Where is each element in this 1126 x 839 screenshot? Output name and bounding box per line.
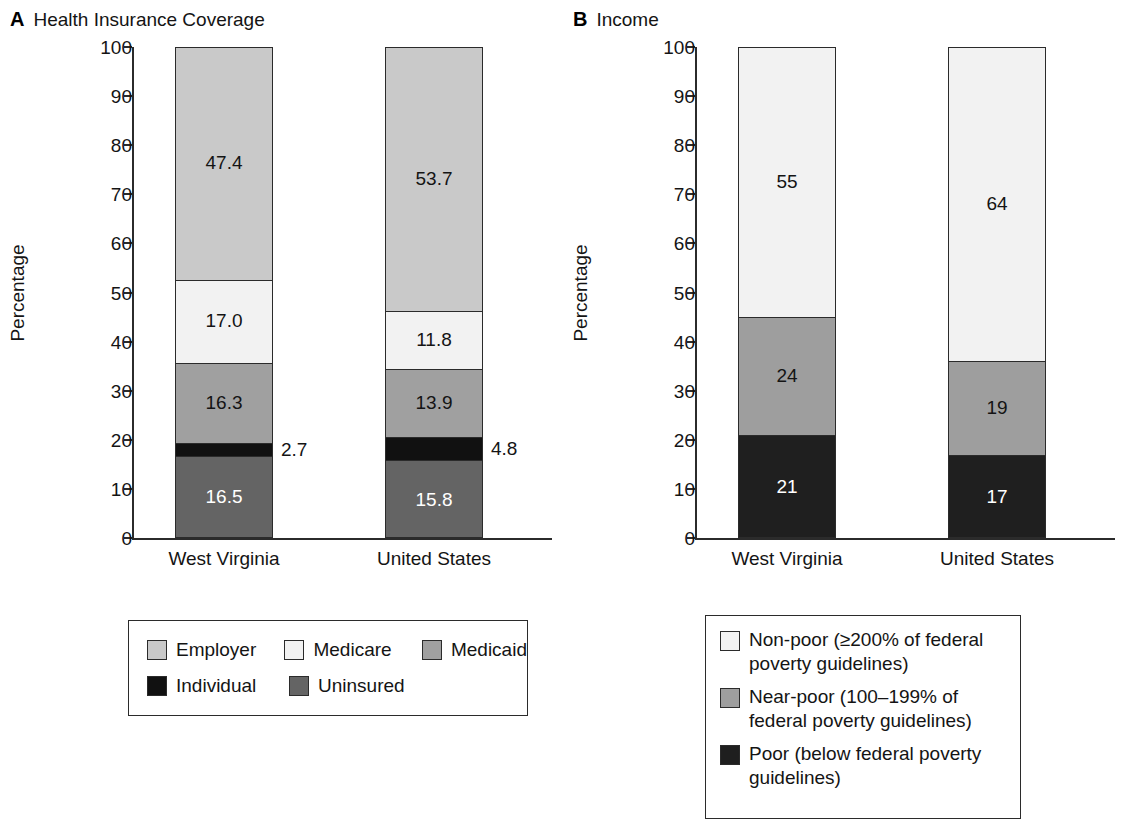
bar-segment: 17.0 [176, 281, 272, 364]
panel-b-x-axis [695, 538, 1115, 540]
bar-segment: 64 [949, 48, 1045, 362]
y-tick-label: 10 [72, 479, 132, 498]
stacked-bar: 641917 [948, 47, 1046, 538]
legend-item-near-poor[interactable]: Near-poor (100–199% of federal poverty g… [720, 685, 1008, 732]
bar-segment: 13.9 [386, 370, 482, 438]
bar-segment: 53.7 [386, 48, 482, 312]
bar-segment-value-label: 47.4 [206, 153, 243, 172]
stacked-bar: 47.417.016.316.5 [175, 47, 273, 538]
bar-segment-value-label: 24 [776, 366, 797, 385]
bar-segment: 47.4 [176, 48, 272, 281]
y-tick-label: 30 [72, 381, 132, 400]
legend-item-uninsured[interactable]: Uninsured [289, 675, 431, 697]
y-tick-label: 20 [635, 430, 695, 449]
y-tick-label: 50 [72, 283, 132, 302]
panel-a-x-axis [132, 538, 552, 540]
bar-segment-value-label: 53.7 [416, 169, 453, 188]
bar-segment-value-label: 19 [986, 398, 1007, 417]
panel-health-insurance-coverage: A Health Insurance Coverage Percentage 0… [0, 0, 563, 839]
legend-row: Employer Medicare Medicaid [129, 632, 527, 668]
y-tick-label: 0 [72, 529, 132, 548]
legend-item-employer[interactable]: Employer [147, 639, 284, 661]
bar-segment: 55 [739, 48, 835, 318]
bar-segment: 24 [739, 318, 835, 436]
legend-swatch-icon [720, 745, 740, 765]
bar-segment: 16.5 [176, 457, 272, 538]
bar-segment-value-label: 13.9 [416, 393, 453, 412]
bar-segment-value-label: 17 [986, 487, 1007, 506]
bar-segment-value-label: 4.8 [491, 438, 517, 460]
y-tick-label: 30 [635, 381, 695, 400]
legend-item-label: Near-poor (100–199% of federal poverty g… [749, 685, 1008, 732]
y-tick-label: 100 [72, 38, 132, 57]
panel-b-y-axis-title: Percentage [570, 244, 592, 341]
panel-b-legend: Non-poor (≥200% of federal poverty guide… [705, 615, 1021, 819]
stacked-bar: 552421 [738, 47, 836, 538]
bar-segment: 16.3 [176, 364, 272, 444]
bar-segment-value-label: 55 [776, 172, 797, 191]
panel-a-y-axis-title: Percentage [7, 244, 29, 341]
y-tick-label: 40 [72, 332, 132, 351]
bar-segment: 15.8 [386, 461, 482, 538]
bar-segment-value-label: 2.7 [281, 439, 307, 461]
legend-swatch-icon [720, 631, 740, 651]
bar-segment [386, 438, 482, 462]
bar-segment-value-label: 15.8 [416, 490, 453, 509]
bar-segment-value-label: 16.5 [206, 487, 243, 506]
x-axis-category-label: West Virginia [677, 548, 897, 570]
y-tick-label: 100 [635, 38, 695, 57]
panel-a-y-axis [132, 47, 134, 539]
legend-swatch-icon [289, 676, 309, 696]
legend-swatch-icon [422, 640, 442, 660]
legend-item-poor[interactable]: Poor (below federal poverty guidelines) [720, 742, 1008, 789]
y-tick-label: 50 [635, 283, 695, 302]
x-axis-category-label: United States [887, 548, 1107, 570]
y-tick-label: 70 [635, 185, 695, 204]
bar-segment: 17 [949, 456, 1045, 538]
legend-row: Individual Uninsured [129, 668, 527, 704]
bar-segment-value-label: 16.3 [206, 393, 243, 412]
stacked-bar: 53.711.813.915.8 [385, 47, 483, 538]
bar-segment: 11.8 [386, 312, 482, 370]
bar-segment: 19 [949, 362, 1045, 455]
bar-segment-value-label: 21 [776, 477, 797, 496]
x-axis-category-label: United States [324, 548, 544, 570]
legend-item-label: Poor (below federal poverty guidelines) [749, 742, 1008, 789]
x-axis-category-label: West Virginia [114, 548, 334, 570]
legend-item-label: Medicare [313, 639, 391, 661]
legend-item-label: Individual [176, 675, 256, 697]
legend-item-medicare[interactable]: Medicare [284, 639, 421, 661]
bar-segment: 21 [739, 436, 835, 538]
y-tick-label: 70 [72, 185, 132, 204]
y-tick-label: 80 [635, 136, 695, 155]
bar-segment-value-label: 64 [986, 194, 1007, 213]
bar-segment [176, 444, 272, 457]
legend-swatch-icon [147, 676, 167, 696]
legend-item-medicaid[interactable]: Medicaid [422, 639, 527, 661]
panel-a-plot: Percentage 0102030405060708090100 2.747.… [0, 0, 563, 600]
y-tick-label: 10 [635, 479, 695, 498]
legend-item-label: Employer [176, 639, 256, 661]
legend-item-label: Medicaid [451, 639, 527, 661]
legend-item-label: Non-poor (≥200% of federal poverty guide… [749, 628, 1008, 675]
y-tick-label: 40 [635, 332, 695, 351]
panel-b-plot: Percentage 0102030405060708090100 552421… [563, 0, 1126, 600]
legend-swatch-icon [720, 688, 740, 708]
y-tick-label: 60 [635, 234, 695, 253]
bar-segment-value-label: 11.8 [416, 330, 452, 349]
bar-segment-value-label: 17.0 [206, 311, 243, 330]
legend-item-individual[interactable]: Individual [147, 675, 289, 697]
y-tick-label: 80 [72, 136, 132, 155]
y-tick-label: 90 [72, 87, 132, 106]
y-tick-label: 20 [72, 430, 132, 449]
y-tick-label: 0 [635, 529, 695, 548]
y-tick-label: 90 [635, 87, 695, 106]
panel-a-legend: Employer Medicare Medicaid Individual Un… [128, 620, 528, 716]
legend-swatch-icon [284, 640, 304, 660]
legend-swatch-icon [147, 640, 167, 660]
y-tick-label: 60 [72, 234, 132, 253]
panel-income: B Income Percentage 01020304050607080901… [563, 0, 1126, 839]
legend-item-label: Uninsured [318, 675, 405, 697]
legend-item-non-poor[interactable]: Non-poor (≥200% of federal poverty guide… [720, 628, 1008, 675]
panel-b-y-axis [695, 47, 697, 539]
